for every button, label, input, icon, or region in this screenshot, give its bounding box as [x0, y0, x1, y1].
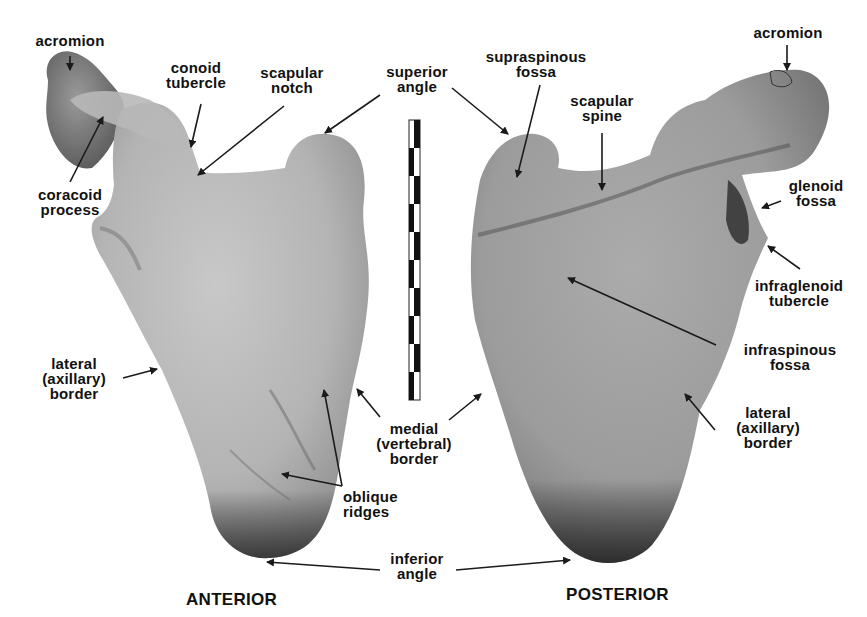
label-lateral-border-posterior: lateral (axillary) border — [722, 405, 814, 450]
label-supraspinous-fossa: supraspinous fossa — [466, 49, 606, 79]
label-oblique-ridges: oblique ridges — [343, 489, 423, 519]
arrow-superior-angle-post — [452, 88, 508, 134]
label-conoid-tubercle: conoid tubercle — [156, 60, 236, 90]
label-inferior-angle: inferior angle — [374, 551, 460, 581]
label-acromion-posterior: acromion — [741, 25, 835, 40]
label-acromion-anterior: acromion — [28, 33, 112, 48]
arrow-lateral-border-ant — [123, 369, 157, 378]
label-medial-border: medial (vertebral) border — [360, 421, 468, 466]
label-scapular-notch: scapular notch — [247, 65, 337, 95]
arrow-superior-angle-ant — [325, 95, 380, 133]
anterior-scapula — [46, 51, 369, 570]
label-superior-angle: superior angle — [372, 64, 462, 94]
arrow-scapular-notch — [198, 106, 284, 175]
label-lateral-border-anterior: lateral (axillary) border — [28, 356, 120, 401]
arrow-inferior-angle-post — [456, 560, 570, 570]
arrow-medial-border-ant — [357, 389, 380, 417]
arrow-infraglenoid-tubercle — [768, 246, 800, 269]
label-scapular-spine: scapular spine — [557, 93, 647, 123]
view-label-anterior: ANTERIOR — [186, 590, 277, 610]
scapula-figure: acromion conoid tubercle scapular notch … — [0, 0, 867, 617]
label-coracoid-process: coracoid process — [25, 187, 115, 217]
anterior-blade-shape — [92, 102, 369, 558]
arrow-inferior-angle-ant — [267, 562, 380, 570]
arrow-conoid-tubercle — [191, 104, 201, 147]
label-infraglenoid-tubercle: infraglenoid tubercle — [738, 278, 860, 308]
arrow-medial-border-post — [449, 394, 481, 420]
label-infraspinous-fossa: infraspinous fossa — [720, 342, 860, 372]
view-label-posterior: POSTERIOR — [566, 585, 669, 605]
scale-bar — [409, 120, 420, 400]
label-glenoid-fossa: glenoid fossa — [774, 178, 858, 208]
